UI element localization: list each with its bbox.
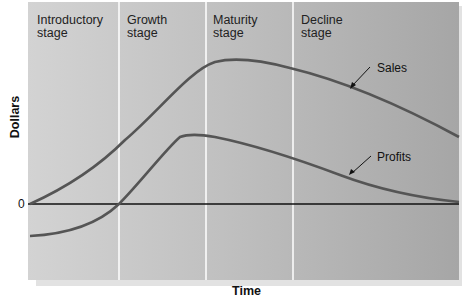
profits-label: Profits [377,150,411,164]
chart-panel [28,2,459,280]
stage-label-line2: stage [37,27,103,40]
x-axis-label: Time [232,284,261,298]
stage-label-line2: stage [127,27,167,40]
stage-label-introductory: Introductory stage [37,14,103,40]
stage-label-maturity: Maturity stage [213,14,257,40]
stage-label-line2: stage [213,27,257,40]
y-axis-label: Dollars [8,96,22,138]
sales-label: Sales [377,61,407,75]
y-tick-zero: 0 [18,197,25,211]
stage-label-decline: Decline stage [301,14,343,40]
stage-label-line2: stage [301,27,343,40]
stage-label-growth: Growth stage [127,14,167,40]
